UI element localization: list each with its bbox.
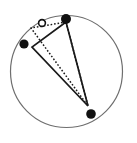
data-point-filled-left — [19, 39, 28, 48]
dotted-triangle — [31, 22, 88, 106]
data-point-filled-top — [61, 14, 71, 24]
data-point-open-circle — [39, 20, 46, 27]
geometry-figure — [0, 0, 137, 143]
data-point-filled-bottom-right — [86, 109, 96, 119]
boundary-circle-group — [11, 16, 123, 128]
dotted-polygon-group — [31, 22, 88, 106]
boundary-circle — [11, 16, 123, 128]
figure-container — [0, 0, 137, 143]
